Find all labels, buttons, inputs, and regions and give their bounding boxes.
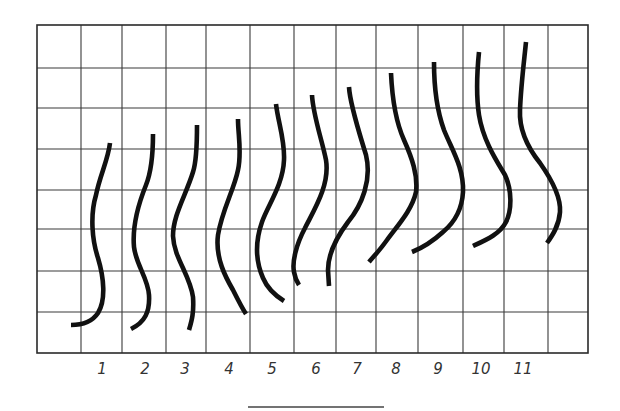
curve-9 bbox=[412, 62, 463, 252]
curve-label-3: 3 bbox=[180, 360, 190, 378]
curve-11 bbox=[520, 42, 560, 243]
curve-label-10: 10 bbox=[471, 360, 490, 378]
curve-label-8: 8 bbox=[391, 360, 401, 378]
curve-label-4: 4 bbox=[224, 360, 234, 378]
curve-3 bbox=[173, 125, 197, 330]
curve-label-2: 2 bbox=[140, 360, 150, 378]
curve-label-7: 7 bbox=[352, 360, 362, 378]
curve-label-11: 11 bbox=[513, 360, 532, 378]
curve-label-6: 6 bbox=[311, 360, 321, 378]
curve-2 bbox=[131, 134, 153, 329]
curve-4 bbox=[217, 119, 246, 314]
curve-1 bbox=[71, 143, 110, 325]
curve-7 bbox=[328, 87, 368, 286]
curve-label-9: 9 bbox=[433, 360, 443, 378]
curve-labels: 1234567891011 bbox=[97, 360, 532, 378]
grid-border bbox=[37, 25, 588, 353]
curves-group bbox=[71, 42, 560, 330]
curve-label-5: 5 bbox=[267, 360, 277, 378]
curve-label-1: 1 bbox=[97, 360, 107, 378]
grid-lines bbox=[37, 25, 588, 353]
curve-grid-figure: 1234567891011 bbox=[0, 0, 620, 411]
